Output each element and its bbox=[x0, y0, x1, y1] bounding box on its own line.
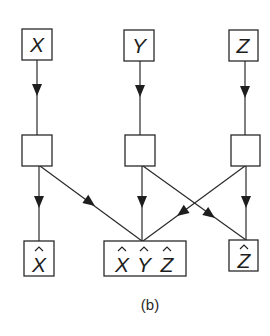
arrowhead-icon bbox=[174, 205, 190, 220]
edge-py-to-combined bbox=[137, 166, 147, 241]
edge-x-to-processor bbox=[32, 60, 42, 135]
arrowhead-icon bbox=[240, 86, 250, 98]
arrowhead-icon bbox=[32, 84, 42, 96]
node-output-combined: X Y Z bbox=[104, 241, 186, 276]
node-input-z: Z bbox=[229, 30, 258, 61]
arrowhead-icon bbox=[82, 195, 98, 210]
edge-pz-to-zhat bbox=[241, 166, 251, 240]
edge-px-to-xhat bbox=[34, 166, 44, 241]
arrowhead-icon bbox=[34, 196, 44, 208]
arrowhead-icon bbox=[135, 85, 145, 97]
arrowhead-icon bbox=[241, 196, 251, 208]
node-processor-y bbox=[125, 135, 155, 166]
figure-caption: (b) bbox=[141, 296, 159, 313]
node-label: Y bbox=[132, 34, 148, 57]
edge-z-to-processor bbox=[240, 61, 250, 135]
node-label-z: Z bbox=[160, 253, 175, 276]
edge-y-to-processor bbox=[135, 61, 145, 135]
node-output-zhat: Z bbox=[229, 240, 258, 272]
arrowhead-icon bbox=[137, 196, 147, 208]
diagram-canvas: X Y Z X X Y Z Z (b) bbox=[0, 0, 270, 336]
arrowhead-icon bbox=[202, 207, 218, 222]
node-input-y: Y bbox=[124, 30, 154, 61]
edge-px-to-combined bbox=[40, 166, 142, 241]
node-label: Z bbox=[236, 34, 251, 57]
node-input-x: X bbox=[22, 29, 52, 60]
node-processor-z bbox=[231, 135, 260, 166]
node-processor-x bbox=[22, 135, 52, 166]
node-label: X bbox=[29, 33, 45, 56]
node-label-y: Y bbox=[137, 253, 153, 276]
node-label-x: X bbox=[114, 253, 130, 276]
node-output-xhat: X bbox=[24, 241, 54, 276]
node-label: X bbox=[31, 253, 47, 276]
node-label: Z bbox=[237, 249, 252, 272]
